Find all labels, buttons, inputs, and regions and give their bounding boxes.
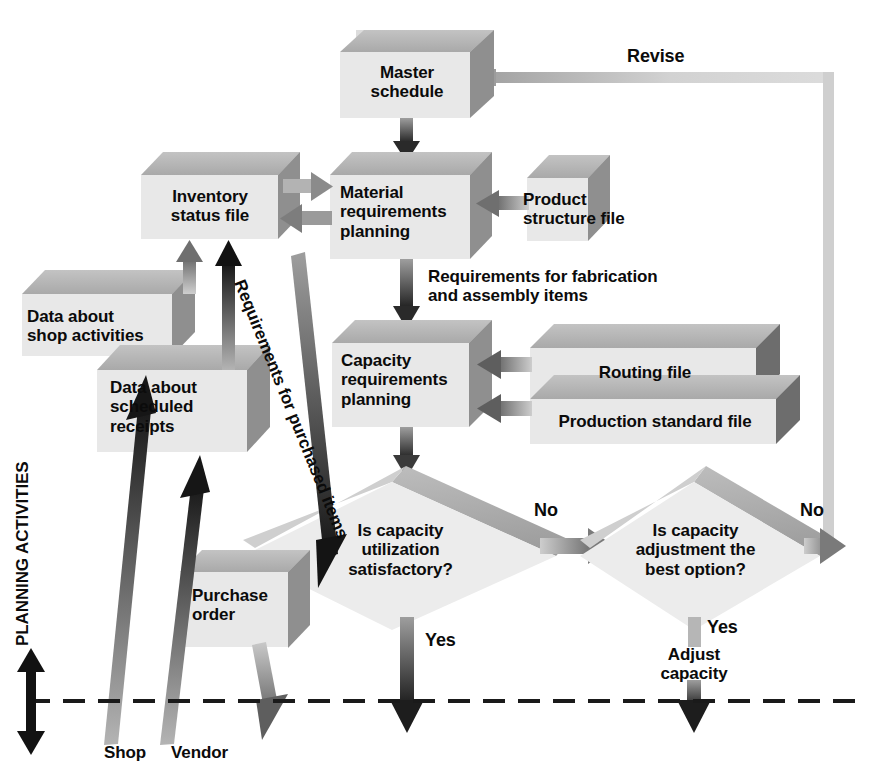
edge-mrp-to-crp bbox=[393, 259, 420, 329]
label-planning-activities: PLANNING ACTIVITIES bbox=[13, 462, 32, 646]
edge-decision1-yes bbox=[390, 617, 424, 733]
label-data-about-scheduled-receipts: Data about scheduled receipts bbox=[110, 378, 250, 436]
label-material-requirements-planning: Material requirements planning bbox=[340, 183, 472, 241]
box-production-standard-file bbox=[530, 375, 800, 444]
label-data-about-shop-activities: Data about shop activities bbox=[27, 307, 187, 346]
label-adjust-capacity: Adjust capacity bbox=[650, 645, 738, 684]
label-routing-file: Routing file bbox=[560, 363, 730, 382]
label-shop: Shop bbox=[104, 743, 146, 762]
label-capacity-requirements-planning: Capacity requirements planning bbox=[341, 351, 473, 409]
label-master-schedule: Master schedule bbox=[352, 63, 462, 102]
label-no-second: No bbox=[800, 500, 824, 521]
flowchart-canvas: Master schedule Inventory status file Ma… bbox=[0, 0, 869, 771]
label-revise: Revise bbox=[627, 46, 684, 67]
label-requirements-for-fabrication: Requirements for fabrication and assembl… bbox=[428, 267, 658, 306]
label-production-standard-file: Production standard file bbox=[540, 412, 770, 431]
label-inventory-status-file: Inventory status file bbox=[146, 187, 274, 226]
label-yes-first: Yes bbox=[425, 630, 456, 651]
label-purchase-order: Purchase order bbox=[192, 586, 292, 625]
label-product-structure-file: Product structure file bbox=[523, 190, 673, 229]
label-yes-second: Yes bbox=[707, 617, 738, 638]
label-decision-capacity-adjustment: Is capacity adjustment the best option? bbox=[613, 521, 778, 579]
label-vendor: Vendor bbox=[171, 743, 228, 762]
edge-purchase-order-to-vendor bbox=[252, 642, 288, 740]
label-no-first: No bbox=[534, 500, 558, 521]
